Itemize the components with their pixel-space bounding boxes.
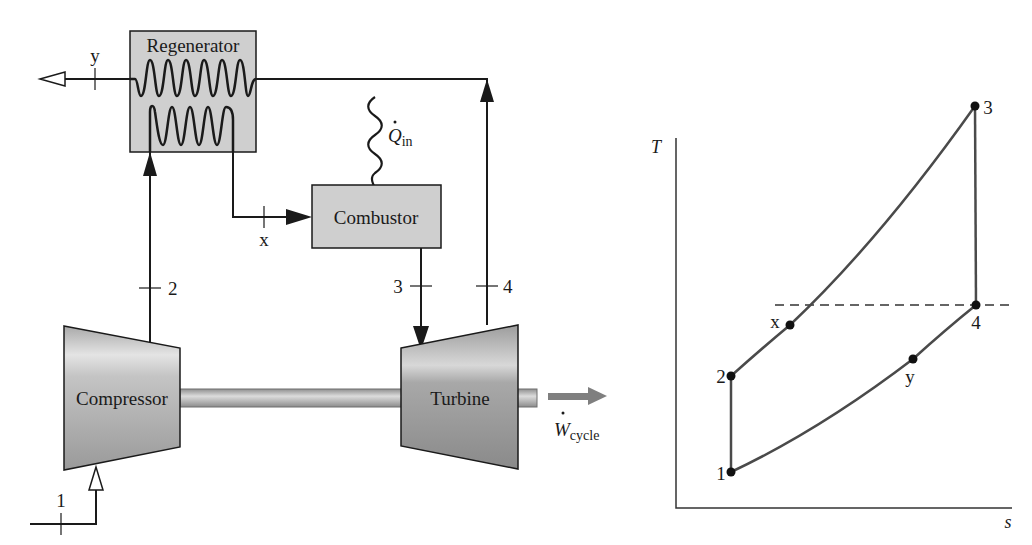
state-points xyxy=(727,102,981,477)
state-y-label: y xyxy=(90,45,100,66)
stream-1: 1 xyxy=(30,467,103,535)
shaft-stub xyxy=(517,389,537,407)
turbine-label: Turbine xyxy=(430,388,489,409)
point-1 xyxy=(727,468,736,477)
schematic: Regenerator y 4 2 xyxy=(30,31,607,535)
chart-label-3: 3 xyxy=(983,97,993,118)
shaft xyxy=(180,389,402,407)
chart-label-x: x xyxy=(770,311,780,332)
exhaust-stream-y: y xyxy=(40,45,130,90)
compressor: Compressor xyxy=(64,326,180,470)
x-axis-label: s xyxy=(1004,512,1011,532)
inlet-arrow-icon xyxy=(89,467,103,490)
heat-wave-icon xyxy=(368,97,382,188)
chart-label-y: y xyxy=(905,366,915,387)
up-arrow-icon xyxy=(143,152,157,176)
state-1-label: 1 xyxy=(56,490,66,511)
point-y xyxy=(909,355,918,364)
dot-accent-icon xyxy=(394,121,397,124)
turbine: Turbine xyxy=(401,325,518,469)
stream-3: 3 xyxy=(393,248,432,350)
point-3 xyxy=(971,102,980,111)
point-2 xyxy=(727,372,736,381)
regenerator: Regenerator xyxy=(130,31,256,152)
combustor-label: Combustor xyxy=(334,207,419,228)
stream-x: x xyxy=(233,152,312,250)
state-x-label: x xyxy=(259,229,269,250)
combustor: Combustor xyxy=(312,185,441,248)
process-4-1 xyxy=(731,305,976,472)
state-2-label: 2 xyxy=(168,278,178,299)
state-3-label: 3 xyxy=(393,276,403,297)
work-arrow-icon xyxy=(588,387,607,405)
exhaust-arrow-icon xyxy=(40,72,65,86)
ts-diagram: T s 1 2 x 3 4 y xyxy=(651,97,1012,532)
cycle-figure: Regenerator y 4 2 xyxy=(0,0,1032,545)
up-arrow-icon xyxy=(480,79,494,102)
work-output: Wcycle xyxy=(548,387,607,443)
compressor-label: Compressor xyxy=(76,388,169,409)
right-arrow-icon xyxy=(286,209,312,225)
axes xyxy=(676,138,1012,508)
y-axis-label: T xyxy=(651,137,663,157)
cycle-path xyxy=(731,106,976,472)
chart-label-4: 4 xyxy=(971,312,981,333)
chart-label-1: 1 xyxy=(716,463,726,484)
heat-input-label: Qin xyxy=(388,125,413,149)
stream-2: 2 xyxy=(139,152,178,344)
chart-label-2: 2 xyxy=(716,366,726,387)
state-4-label: 4 xyxy=(503,276,513,297)
point-x xyxy=(786,321,795,330)
point-4 xyxy=(972,301,981,310)
work-output-label: Wcycle xyxy=(554,419,599,443)
process-3-4 xyxy=(975,106,976,305)
dot-accent-icon xyxy=(562,412,565,415)
regenerator-label: Regenerator xyxy=(147,35,241,56)
